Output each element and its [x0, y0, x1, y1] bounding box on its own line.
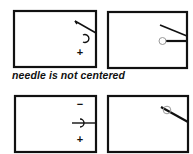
pivot-open-icon [83, 35, 89, 43]
pivot-circle-icon [159, 38, 166, 45]
panel-bottom-left: − + [15, 96, 96, 152]
plus-sign: + [77, 46, 83, 58]
needle [160, 25, 187, 36]
plus-sign: + [77, 133, 83, 145]
minus-sign: − [77, 98, 83, 110]
panel-bottom-right [108, 96, 188, 152]
panel-top-right [108, 12, 187, 68]
panel-top-left: + [14, 11, 96, 67]
caption: needle is not centered [12, 69, 125, 81]
panel-frame [14, 11, 96, 67]
panel-frame [108, 96, 188, 152]
needle [161, 107, 188, 122]
needle [75, 21, 96, 33]
